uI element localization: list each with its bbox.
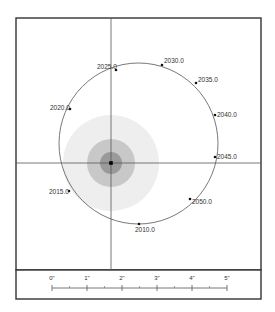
epoch-label: 2050.0 [192,198,212,205]
epoch-marker [195,82,198,85]
epoch-label: 2035.0 [198,76,218,83]
orbit-diagram: 2010.02015.02020.02025.02030.02035.02040… [0,0,275,312]
epoch-marker [214,156,217,159]
epoch-label: 2045.0 [217,153,237,160]
scale-tick-label: 1" [84,275,89,281]
scale-tick-label: 2" [119,275,124,281]
epoch-label: 2015.0 [49,188,69,195]
scale-tick-label: 3" [154,275,159,281]
epoch-label: 2025.0 [97,63,117,70]
epoch-marker [189,198,192,201]
epoch-label: 2030.0 [164,57,184,64]
epoch-marker [138,223,141,226]
scale-tick-label: 0" [49,275,54,281]
epoch-label: 2020.0 [50,104,70,111]
epoch-label: 2040.0 [217,111,237,118]
primary-star-dot [109,161,113,165]
epoch-label: 2010.0 [135,226,155,233]
scale-tick-label: 5" [224,275,229,281]
scale-tick-label: 4" [189,275,194,281]
epoch-marker [161,64,164,67]
epoch-marker [214,114,217,117]
